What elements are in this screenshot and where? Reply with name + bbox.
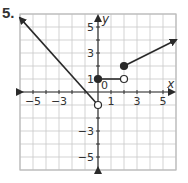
svg-text:y: y <box>101 12 110 26</box>
svg-text:−3: −3 <box>78 125 94 138</box>
axes <box>22 16 174 168</box>
tick-labels: −5−3135531−3−50xy <box>25 12 175 164</box>
svg-text:0: 0 <box>101 79 108 92</box>
svg-text:−3: −3 <box>51 95 67 108</box>
svg-text:3: 3 <box>134 95 141 108</box>
svg-text:−5: −5 <box>78 151 94 164</box>
piecewise-graph: −5−3135531−3−50xy <box>0 0 188 183</box>
svg-text:−5: −5 <box>25 95 41 108</box>
svg-text:3: 3 <box>87 47 94 60</box>
svg-text:5: 5 <box>160 95 167 108</box>
svg-text:1: 1 <box>87 73 94 86</box>
svg-text:x: x <box>166 77 175 91</box>
svg-text:1: 1 <box>108 95 115 108</box>
svg-text:5: 5 <box>87 21 94 34</box>
